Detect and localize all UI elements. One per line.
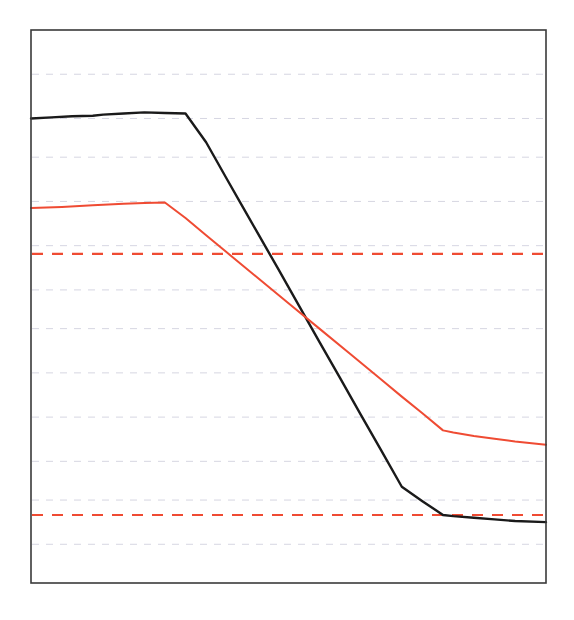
- chart-plot-svg: [0, 0, 574, 620]
- chart-figure: [0, 0, 574, 620]
